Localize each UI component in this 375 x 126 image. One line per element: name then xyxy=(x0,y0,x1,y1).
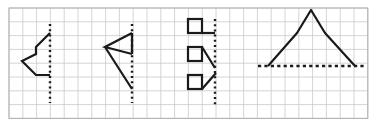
grid-figure-canvas xyxy=(0,0,375,126)
figure-page xyxy=(0,0,375,126)
